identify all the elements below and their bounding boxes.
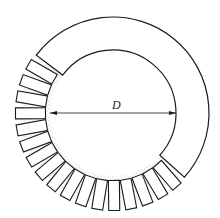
diameter-label: D — [111, 98, 121, 112]
arrow-left-icon — [50, 111, 57, 115]
arrow-right-icon — [169, 111, 176, 115]
diameter-dimension: D — [50, 98, 176, 115]
ring-diagram: D — [0, 0, 220, 218]
segment-blocks — [15, 60, 181, 211]
segment-block — [15, 108, 45, 119]
segment-block — [108, 180, 119, 210]
